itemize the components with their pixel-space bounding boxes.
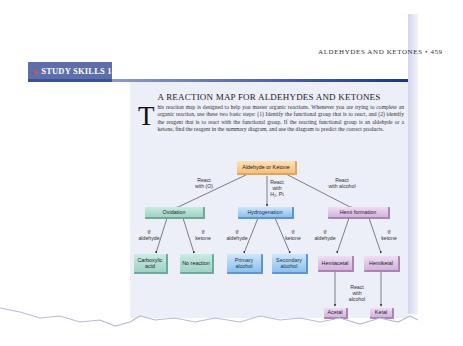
torn-page-edge: [0, 0, 463, 346]
